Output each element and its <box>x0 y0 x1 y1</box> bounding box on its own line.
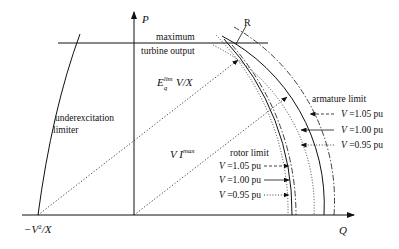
svg-text:V =1.05 pu: V =1.05 pu <box>219 161 261 171</box>
armature-legend-entry-1-00: V =1.00 pu <box>301 125 383 135</box>
armature-limit-curve-1-05 <box>234 27 335 215</box>
svg-text:V =1.00 pu: V =1.00 pu <box>341 125 383 135</box>
capability-diagram: P Q −V2/X maximum turbine output R under… <box>0 0 399 249</box>
svg-text:V =0.95 pu: V =0.95 pu <box>219 190 261 200</box>
rotor-legend-entry-1-00: V =1.00 pu <box>219 175 289 185</box>
armature-limit-title: armature limit <box>312 94 366 104</box>
p-axis-label: P <box>141 13 149 25</box>
armature-limit-curve-1-00 <box>222 36 324 215</box>
eq-lim-vector <box>38 60 238 215</box>
svg-text:V =1.05 pu: V =1.05 pu <box>341 109 383 119</box>
q-axis-label: Q <box>339 224 347 236</box>
underexcitation-label-line1: underexcitation <box>55 113 114 123</box>
max-turbine-label-line2: turbine output <box>141 46 195 56</box>
svg-text:V =1.00 pu: V =1.00 pu <box>219 175 261 185</box>
point-r-label: R <box>244 17 251 28</box>
neg-v2-over-x-label: −V2/X <box>24 223 53 235</box>
rotor-limit-title: rotor limit <box>230 148 269 158</box>
rotor-legend-entry-0-95: V =0.95 pu <box>219 190 289 200</box>
svg-text:V =0.95 pu: V =0.95 pu <box>341 140 383 150</box>
armature-legend-entry-1-05: V =1.05 pu <box>310 109 383 119</box>
eq-lim-label: Elimq V/X <box>156 75 194 92</box>
rotor-legend-entry-1-05: V =1.05 pu <box>219 161 289 171</box>
vi-max-label: V Imax <box>170 147 195 160</box>
max-turbine-label-line1: maximum <box>156 32 195 42</box>
underexcitation-label-line2: limiter <box>53 125 79 135</box>
rotor-limit-curve-0-95 <box>216 35 288 215</box>
